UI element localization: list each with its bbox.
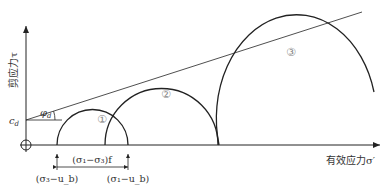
failure-envelope bbox=[26, 12, 362, 120]
x-axis-label: 有效应力σ′ bbox=[326, 154, 376, 166]
friction-angle-arc bbox=[54, 111, 55, 120]
right-marker-label: (σ₁−u_b) bbox=[107, 173, 150, 185]
circle-2-label: ② bbox=[161, 88, 171, 101]
mohr-circle-1 bbox=[57, 110, 128, 146]
mohr-diagram: 剪应力τ 有效应力σ′ cd φd ① ② ③ (σ₁−σ₃)f (σ₃−u_b… bbox=[0, 0, 388, 195]
mohr-circle-3 bbox=[216, 15, 374, 145]
circle-1-label: ① bbox=[97, 113, 107, 126]
y-axis-label: 剪应力τ bbox=[7, 52, 19, 88]
cohesion-label: cd bbox=[9, 115, 20, 128]
friction-label: φd bbox=[40, 107, 52, 120]
circle-3-label: ③ bbox=[286, 46, 296, 59]
dimension-label: (σ₁−σ₃)f bbox=[72, 154, 113, 165]
left-marker-label: (σ₃−u_b) bbox=[36, 173, 79, 185]
